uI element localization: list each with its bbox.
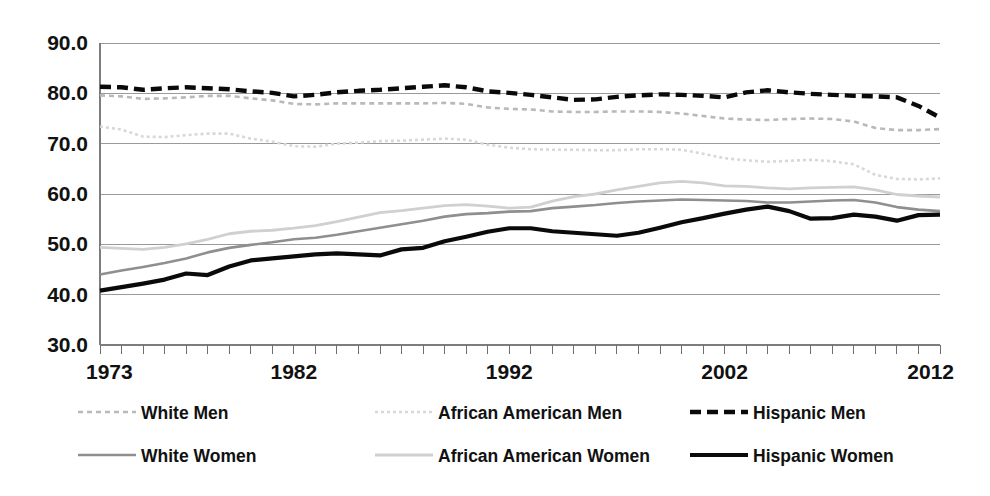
- x-axis-tick-label: 1973: [86, 360, 133, 383]
- legend-label-white_men: White Men: [141, 403, 229, 423]
- y-axis-tick-label: 50.0: [47, 232, 88, 255]
- x-axis-tickmarks-group: [100, 345, 940, 354]
- line-chart-figure: 90.080.070.060.050.040.030.0 19731982199…: [0, 0, 990, 496]
- legend-label-hispanic_women: Hispanic Women: [753, 446, 894, 466]
- x-axis-tick-label: 1992: [486, 360, 533, 383]
- legend-item-white_women[interactable]: White Women: [78, 446, 256, 466]
- legend-item-african_american_women[interactable]: African American Women: [375, 446, 650, 466]
- legend-label-white_women: White Women: [141, 446, 256, 466]
- legend-item-hispanic_men[interactable]: Hispanic Men: [690, 403, 866, 423]
- legend-item-white_men[interactable]: White Men: [78, 403, 229, 423]
- y-axis-tick-label: 30.0: [47, 333, 88, 356]
- x-axis-tick-label: 2012: [907, 360, 954, 383]
- series-line-white_men: [100, 95, 940, 130]
- y-axis-tick-label: 40.0: [47, 283, 88, 306]
- legend-item-african_american_men[interactable]: African American Men: [375, 403, 622, 423]
- y-axis-tick-label: 60.0: [47, 182, 88, 205]
- legend-label-hispanic_men: Hispanic Men: [753, 403, 866, 423]
- x-axis-tick-label: 2002: [701, 360, 748, 383]
- y-axis-tick-label: 80.0: [47, 81, 88, 104]
- y-axis-labels-group: 90.080.070.060.050.040.030.0: [47, 31, 88, 356]
- y-axis-tick-label: 90.0: [47, 31, 88, 54]
- legend-label-african_american_men: African American Men: [438, 403, 622, 423]
- legend: White MenAfrican American MenHispanic Me…: [78, 403, 894, 466]
- data-series-group: [100, 85, 940, 290]
- series-line-white_women: [100, 200, 940, 275]
- series-line-african_american_women: [100, 181, 940, 249]
- series-line-african_american_men: [100, 127, 940, 180]
- chart-canvas: 90.080.070.060.050.040.030.0 19731982199…: [0, 0, 990, 496]
- x-axis-labels-group: 19731982199220022012: [86, 360, 954, 383]
- legend-label-african_american_women: African American Women: [438, 446, 650, 466]
- legend-item-hispanic_women[interactable]: Hispanic Women: [690, 446, 894, 466]
- y-axis-tick-label: 70.0: [47, 132, 88, 155]
- x-axis-tick-label: 1982: [270, 360, 317, 383]
- series-line-hispanic_men: [100, 85, 940, 117]
